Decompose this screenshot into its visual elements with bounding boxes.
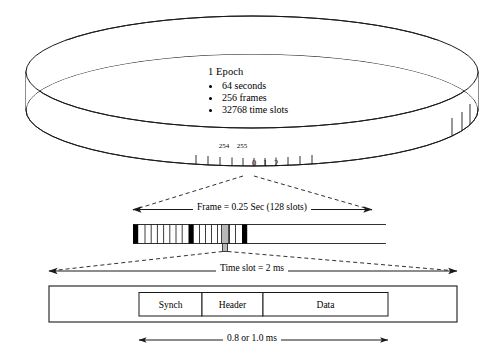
frame-dimension-text: Frame = 0.25 Sec (128 slots): [193, 202, 311, 212]
field-label-data: Data: [263, 300, 388, 310]
epoch-bullet-frames: 256 frames: [205, 92, 345, 104]
ring-frame-label-254: 254: [216, 142, 232, 150]
burst-dimension-text: 0.8 or 1.0 ms: [223, 333, 281, 343]
epoch-callout: 1 Epoch 64 seconds 256 frames 32768 time…: [205, 66, 345, 116]
timeslot-dimension-text: Time slot = 2 ms: [216, 263, 288, 273]
epoch-bullet-seconds: 64 seconds: [205, 80, 345, 92]
ring-cell-0: 0: [249, 158, 259, 168]
epoch-bullet-slots: 32768 time slots: [205, 104, 345, 116]
selected-time-slot: [222, 225, 229, 244]
tdma-frame-diagram: 1 Epoch 64 seconds 256 frames 32768 time…: [0, 0, 504, 362]
burst-dimension-label: 0.8 or 1.0 ms: [0, 333, 504, 343]
epoch-title: 1 Epoch: [205, 66, 345, 77]
ring-cell-1: 1: [260, 158, 270, 168]
selected-slot-stub: [223, 244, 228, 252]
field-label-synch: Synch: [139, 300, 202, 310]
ring-slot-ticks-right: [452, 104, 470, 143]
frame-slot-bar: [133, 225, 386, 252]
field-label-header: Header: [202, 300, 263, 310]
timeslot-dimension-label: Time slot = 2 ms: [0, 263, 504, 273]
ring-frame-label-255: 255: [234, 142, 250, 150]
ring-cell-2: 2: [271, 158, 281, 168]
epoch-bullet-list: 64 seconds 256 frames 32768 time slots: [205, 80, 345, 117]
frame-dimension-label: Frame = 0.25 Sec (128 slots): [0, 202, 504, 212]
